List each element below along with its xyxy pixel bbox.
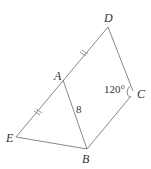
label-D: D [103,11,113,25]
label-A: A [53,69,62,83]
label-B: B [82,152,90,166]
segment-DC [108,27,133,91]
label-C: C [137,87,146,101]
segment-CB [87,96,131,149]
label-AB-length: 8 [76,103,82,115]
angle-arc-C [127,86,130,98]
label-E: E [5,131,14,145]
label-angle-C: 120° [104,83,125,95]
tick-mark-AD [80,50,88,56]
segment-AB [63,80,87,149]
segment-ED [16,27,108,137]
segment-EB [16,137,87,149]
geometry-diagram: D C A E B 8 120° [0,0,151,169]
